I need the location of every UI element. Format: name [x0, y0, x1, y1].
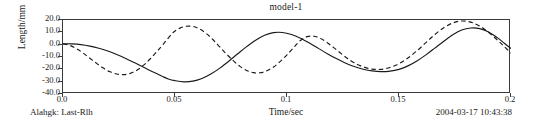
series-line-dashed [63, 21, 511, 75]
y-tick-label: -30.0 [26, 76, 60, 85]
y-tick-label: -10.0 [26, 51, 60, 60]
series-layer [63, 21, 511, 82]
plot-svg [63, 20, 511, 94]
y-tick-label: 20.0 [26, 14, 60, 23]
chart-screenshot: model-1 Length/mm 20.010.00.0-10.0-20.0-… [0, 0, 534, 127]
x-tick-mark [286, 93, 287, 97]
plot-area [62, 19, 510, 93]
x-tick-mark [62, 93, 63, 97]
y-tick-label: 10.0 [26, 26, 60, 35]
y-tick-mark [58, 31, 62, 32]
y-tick-mark [58, 68, 62, 69]
y-tick-mark [58, 56, 62, 57]
y-tick-label: -20.0 [26, 63, 60, 72]
chart-title: model-1 [62, 2, 510, 12]
x-tick-mark [398, 93, 399, 97]
x-tick-mark [174, 93, 175, 97]
footer-left-text: Alahgk: Last-Rlh [30, 107, 93, 117]
x-tick-mark [510, 93, 511, 97]
y-tick-mark [58, 44, 62, 45]
x-axis-tick-labels: 0.00.050.10.150.2 [0, 94, 534, 106]
y-tick-label: 0.0 [26, 39, 60, 48]
y-tick-mark [58, 81, 62, 82]
footer-right-timestamp: 2004-03-17 10:43:38 [436, 107, 512, 117]
y-tick-mark [58, 19, 62, 20]
